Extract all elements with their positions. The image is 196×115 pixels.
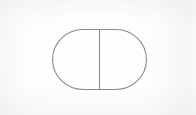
divided-capsule-figure [0, 0, 196, 115]
figure-canvas [0, 0, 196, 115]
